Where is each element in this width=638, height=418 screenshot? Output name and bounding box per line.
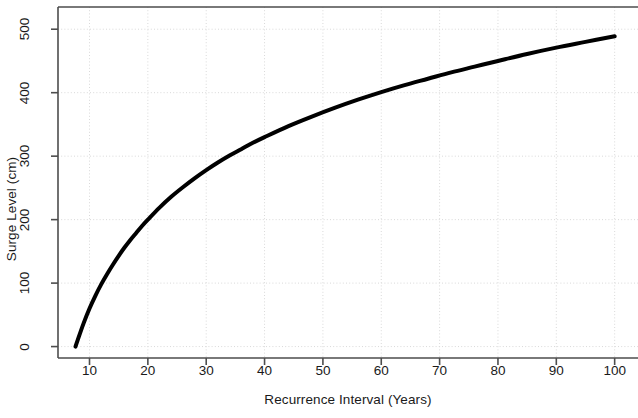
data-curve <box>76 36 615 346</box>
surge-level-recurrence-chart: Surge Level (cm) Recurrence Interval (Ye… <box>0 0 638 418</box>
axis-box <box>58 7 638 358</box>
plot-area <box>0 0 638 418</box>
tick-marks <box>51 29 615 365</box>
gridlines <box>58 7 638 358</box>
